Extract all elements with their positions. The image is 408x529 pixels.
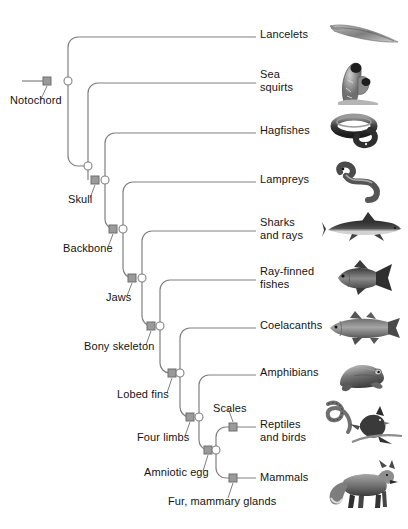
trait-marker-fur-mammary	[229, 474, 237, 482]
trait-marker-bony-skeleton	[147, 322, 155, 330]
trait-label-bony-skeleton: Bony skeleton	[84, 340, 154, 353]
trait-label-notochord: Notochord	[10, 94, 62, 107]
lamprey-image	[330, 160, 392, 204]
node-craniata	[101, 176, 109, 184]
node-gnathostomata	[138, 274, 146, 282]
node-amniota	[212, 446, 220, 454]
branch-coelacanths	[180, 328, 256, 373]
node-tetrapoda	[195, 413, 203, 421]
trait-marker-amniotic-egg	[204, 446, 212, 454]
tip-label-lancelets: Lancelets	[260, 28, 308, 41]
snake-and-bird-image	[322, 398, 406, 452]
trait-label-four-limbs: Four limbs	[137, 431, 189, 444]
branch-sea-squirts	[88, 83, 256, 166]
trait-label-scales: Scales	[213, 402, 247, 415]
trait-label-jaws: Jaws	[106, 291, 131, 304]
node-tunicata-split	[84, 162, 92, 170]
spine-chordata-to-seasquirt-node	[68, 81, 86, 166]
node-osteichthyes	[156, 322, 164, 330]
tip-label-reptiles-birds: Reptiles and birds	[260, 418, 306, 443]
lancelet-image	[326, 16, 402, 50]
spine-limbs-to-amniota	[199, 417, 208, 450]
tip-label-amphibians: Amphibians	[260, 366, 318, 379]
frog-image	[330, 358, 392, 396]
trait-marker-lobed-fins	[168, 369, 176, 377]
shark-image	[322, 210, 404, 244]
fox-image	[326, 458, 400, 514]
trait-label-amniotic-egg: Amniotic egg	[144, 466, 209, 479]
spine-lobed-to-limbs	[180, 373, 190, 417]
spine-gnatho-to-bony	[142, 278, 151, 326]
spine-craniata-to-vertebrata	[105, 180, 113, 229]
branch-lampreys	[123, 182, 256, 229]
trait-marker-notochord	[43, 77, 51, 85]
tip-label-sharks-rays: Sharks and rays	[260, 216, 303, 241]
trait-marker-four-limbs	[186, 413, 194, 421]
tip-label-mammals: Mammals	[260, 471, 308, 484]
branch-ray-finned	[160, 280, 256, 326]
branch-lancelets	[68, 37, 256, 81]
sea-squirt-image	[334, 58, 384, 106]
branch-sharks-rays	[142, 231, 256, 278]
tip-label-sea-squirts: Sea squirts	[260, 68, 293, 93]
ray-finned-fish-image	[330, 258, 396, 296]
node-sarcopterygii	[176, 369, 184, 377]
node-vertebrata	[119, 225, 127, 233]
trait-marker-backbone	[109, 225, 117, 233]
tip-label-coelacanths: Coelacanths	[260, 319, 322, 332]
coelacanth-image	[322, 308, 402, 346]
branch-hagfishes	[105, 133, 256, 180]
trait-marker-skull	[91, 176, 99, 184]
trait-label-backbone: Backbone	[63, 242, 113, 255]
trait-label-lobed-fins: Lobed fins	[117, 388, 169, 401]
trait-label-fur-mammary: Fur, mammary glands	[168, 495, 276, 508]
tip-label-hagfishes: Hagfishes	[260, 124, 310, 137]
spine-bony-to-lobed	[160, 326, 172, 373]
spine-vertebrata-to-jaws	[123, 229, 132, 278]
node-chordata	[64, 77, 72, 85]
trait-label-skull: Skull	[68, 193, 92, 206]
tip-label-lampreys: Lampreys	[260, 173, 309, 186]
trait-marker-jaws	[128, 274, 136, 282]
hagfish-image	[330, 112, 390, 152]
trait-marker-scales	[229, 423, 237, 431]
tip-label-ray-finned: Ray-finned fishes	[260, 265, 314, 290]
